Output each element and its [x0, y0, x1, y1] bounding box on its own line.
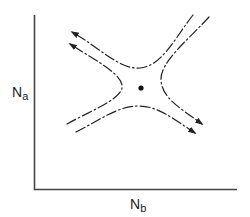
equilibrium-point [138, 85, 143, 90]
phase-plane-plot [0, 0, 250, 217]
phase-plane-figure: Na Nb [0, 0, 250, 217]
trajectory-top [72, 15, 193, 68]
trajectory-right [161, 17, 209, 124]
y-axis-label: Na [12, 85, 28, 102]
x-axis-label: Nb [130, 197, 146, 214]
